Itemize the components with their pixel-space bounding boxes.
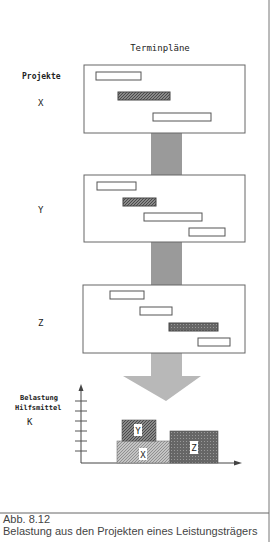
task-bar-dark [169,323,218,331]
task-bar [198,338,230,346]
y-axis-arrow-icon [79,384,84,391]
load-chart: Belastung Hilfsmittel K X Y Z [15,384,242,466]
resource-label: K [27,417,33,427]
task-bar [189,228,225,236]
connector-x-y [151,133,182,178]
task-bar [140,307,172,315]
project-label-x: X [38,98,44,108]
project-label-z: Z [38,318,44,328]
figure-caption: Abb. 8.12 Belastung aus den Projekten ei… [0,513,268,537]
connector-y-z [151,242,182,287]
load-block-label-x: X [140,450,146,460]
resource-load-diagram: Terminpläne Projekte X Y Z Belastung Hil… [0,0,273,542]
task-bar-hatched [118,92,170,100]
y-axis-label-line1: Belastung [20,394,58,402]
projects-label: Projekte [22,71,61,81]
caption-text: Belastung aus den Projekten eines Leistu… [3,525,268,537]
x-axis-arrow-icon [234,461,242,466]
caption-number: Abb. 8.12 [3,513,268,525]
task-bar-hatched [123,198,156,206]
diagram-title: Terminpläne [130,43,190,53]
project-y-schedule: Y [38,175,245,242]
project-label-y: Y [38,205,44,215]
task-bar [96,72,141,80]
task-bar [97,182,136,190]
task-bar [144,213,202,221]
load-block-label-z: Z [191,443,197,453]
task-bar [153,113,211,121]
task-bar [110,291,144,299]
y-axis-label-line2: Hilfsmittel [15,404,61,412]
load-block-label-y: Y [135,426,141,436]
project-x-schedule: X [38,65,245,133]
project-z-schedule: Z [38,285,245,353]
down-arrow-icon [123,352,201,401]
